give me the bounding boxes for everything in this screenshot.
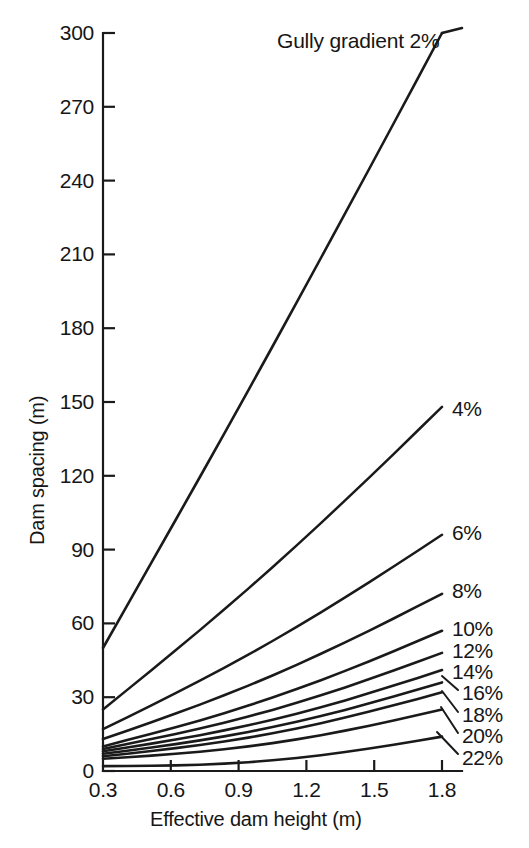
x-tick-label-1-8: 1.8: [428, 779, 456, 800]
y-tick-label-240: 240: [24, 170, 94, 191]
y-tick-label-60: 60: [24, 612, 94, 633]
series-label-14pct: 14%: [452, 661, 493, 682]
leader-line-22pct: [437, 732, 458, 754]
series-label-18pct: 18%: [462, 704, 503, 725]
x-axis-ticks: [171, 760, 442, 771]
series-line-10pct: [103, 631, 442, 747]
series-label-12pct: 12%: [452, 640, 493, 661]
series-label-20pct: 20%: [462, 725, 503, 746]
chart-canvas: [0, 0, 529, 848]
series-label-4pct: 4%: [452, 398, 482, 419]
x-axis-title: Effective dam height (m): [150, 808, 362, 831]
series-line-2pct-overrun: [442, 28, 462, 33]
series-label-6pct: 6%: [452, 522, 482, 543]
series-line-8pct: [103, 594, 442, 739]
y-tick-label-0: 0: [24, 760, 94, 781]
figure-dam-spacing-chart: 0306090120150180210240270300 0.30.60.91.…: [0, 0, 529, 848]
series-label-10pct: 10%: [452, 618, 493, 639]
y-tick-label-270: 270: [24, 96, 94, 117]
series-label-8pct: 8%: [452, 580, 482, 601]
y-axis-title: Dam spacing (m): [26, 396, 49, 545]
y-tick-label-210: 210: [24, 243, 94, 264]
cut-off-caption-fragment: [8, 836, 308, 846]
axis-lines: [103, 33, 462, 771]
x-tick-label-0-3: 0.3: [89, 779, 117, 800]
series-lines: [103, 28, 462, 766]
series-label-16pct: 16%: [462, 682, 503, 703]
series-label-22pct: 22%: [462, 747, 503, 768]
leader-line-18pct: [442, 691, 458, 712]
x-tick-label-1-2: 1.2: [292, 779, 320, 800]
series-line-6pct: [103, 535, 442, 729]
gully-gradient-annotation: Gully gradient 2%: [277, 30, 439, 51]
y-tick-label-30: 30: [24, 686, 94, 707]
y-axis-ticks: [103, 33, 115, 771]
series-line-2pct: [103, 33, 442, 648]
label-leader-lines: [437, 676, 458, 754]
leader-line-20pct: [441, 707, 458, 733]
x-tick-label-0-6: 0.6: [157, 779, 185, 800]
x-tick-label-1-5: 1.5: [360, 779, 388, 800]
y-tick-label-180: 180: [24, 317, 94, 338]
x-tick-label-0-9: 0.9: [224, 779, 252, 800]
y-tick-label-300: 300: [24, 22, 94, 43]
plot-area: 0306090120150180210240270300 0.30.60.91.…: [0, 0, 529, 848]
